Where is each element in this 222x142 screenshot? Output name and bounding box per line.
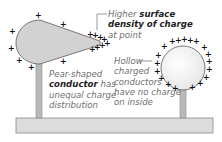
pear-shaped-conductor [16,20,100,64]
annotation-line1-pre: Higher [108,9,139,19]
svg-text:+: + [161,42,168,51]
annotation-line3: at point [108,30,193,40]
hollow-label-line5: on inside [114,97,181,107]
pear-conductor-label: Pear-shaped conductor has unequal charge… [49,69,116,110]
hollow-sphere-label: Hollow charged conductors have no charge… [114,56,181,107]
base-platform [16,118,213,133]
svg-text:+: + [189,83,196,92]
electrostatics-diagram: + + + + + + + + + + + + + + + + + + + + … [0,0,222,142]
pear-label-line2-rest: has [98,79,116,89]
svg-text:+: + [60,20,67,29]
svg-text:+: + [197,79,204,88]
pear-label-conductor-bold: conductor [49,79,98,89]
point-leader-line [97,14,107,30]
svg-text:+: + [9,27,16,36]
hollow-label-line2: charged [114,66,181,76]
hollow-label-line3: conductors [114,77,181,87]
hollow-label-line1: Hollow [114,56,181,66]
annotation-density-bold: density of charge [108,19,193,29]
svg-text:+: + [89,45,96,54]
pear-stand [36,61,42,118]
pear-label-line4: distribution [49,100,116,110]
svg-text:+: + [16,56,23,65]
svg-text:+: + [203,73,210,82]
svg-text:+: + [28,63,35,72]
svg-text:+: + [60,57,67,66]
svg-text:+: + [8,44,15,53]
annotation-surface-bold: surface [139,9,175,19]
svg-text:+: + [193,37,200,46]
pear-label-line1: Pear-shaped [49,69,116,79]
pear-label-line3: unequal charge [49,90,116,100]
svg-text:+: + [35,11,42,20]
point-annotation: Higher surface density of charge at poin… [108,9,193,40]
hollow-label-line4: have no charge [114,87,181,97]
